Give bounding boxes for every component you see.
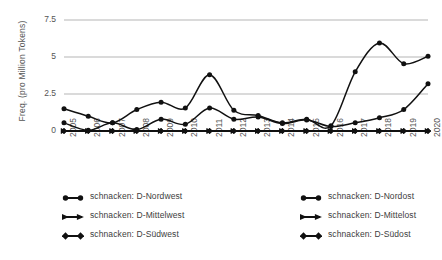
- legend-label: schnacken: D-Nordwest: [90, 191, 182, 201]
- data-point-circle-marker: [256, 114, 261, 119]
- legend-label: schnacken: D-Nordost: [328, 191, 414, 201]
- legend-item[interactable]: schnacken: D-Nordwest: [62, 186, 184, 205]
- data-point-circle-marker: [280, 121, 285, 126]
- series-2: [62, 81, 431, 133]
- legend-item[interactable]: schnacken: D-Südost: [300, 224, 416, 243]
- data-point-circle-marker: [63, 195, 68, 200]
- legend-swatch: [300, 209, 322, 221]
- legend-item[interactable]: schnacken: D-Südwest: [62, 224, 184, 243]
- data-point-circle-marker: [426, 54, 431, 59]
- series-1: [62, 40, 431, 128]
- data-point-triangle-marker: [77, 213, 84, 219]
- legend: schnacken: D-Nordwestschnacken: D-Mittel…: [0, 186, 438, 260]
- legend-label: schnacken: D-Mittelost: [328, 210, 416, 220]
- data-point-circle-marker: [207, 72, 212, 77]
- data-point-circle-marker: [62, 106, 67, 111]
- data-point-circle-marker: [304, 117, 309, 122]
- legend-swatch: [300, 190, 322, 202]
- data-point-circle-marker: [377, 115, 382, 120]
- circle-marker-icon: [300, 192, 322, 204]
- data-point-diamond-marker: [77, 232, 84, 239]
- triangle-marker-icon: [300, 211, 322, 223]
- series-6: [61, 128, 431, 134]
- data-point-circle-marker: [426, 81, 431, 86]
- data-point-circle-marker: [207, 106, 212, 111]
- legend-item[interactable]: schnacken: D-Mittelost: [300, 205, 416, 224]
- triangle-marker-icon: [62, 211, 84, 223]
- diamond-marker-icon: [62, 230, 84, 242]
- data-point-circle-marker: [231, 108, 236, 113]
- data-point-diamond-marker: [315, 232, 322, 239]
- legend-column-left: schnacken: D-Nordwestschnacken: D-Mittel…: [62, 186, 184, 243]
- legend-swatch: [62, 209, 84, 221]
- circle-marker-icon: [62, 192, 84, 204]
- data-point-circle-marker: [183, 106, 188, 111]
- series-line: [64, 84, 428, 131]
- data-point-circle-marker: [110, 120, 115, 125]
- data-point-circle-marker: [401, 107, 406, 112]
- data-point-circle-marker: [134, 107, 139, 112]
- legend-label: schnacken: D-Südwest: [90, 229, 179, 239]
- data-point-circle-marker: [159, 117, 164, 122]
- plot-area: [0, 0, 438, 186]
- data-point-circle-marker: [353, 69, 358, 74]
- data-point-circle-marker: [353, 120, 358, 125]
- data-point-diamond-marker: [300, 232, 307, 239]
- data-point-circle-marker: [62, 120, 67, 125]
- legend-label: schnacken: D-Südost: [328, 229, 411, 239]
- data-point-circle-marker: [159, 100, 164, 105]
- data-point-circle-marker: [316, 195, 321, 200]
- diamond-marker-icon: [300, 230, 322, 242]
- legend-item[interactable]: schnacken: D-Nordost: [300, 186, 416, 205]
- legend-column-right: schnacken: D-Nordostschnacken: D-Mittelo…: [300, 186, 416, 243]
- series-line: [64, 43, 428, 128]
- data-point-circle-marker: [401, 61, 406, 66]
- legend-swatch: [300, 228, 322, 240]
- data-point-circle-marker: [183, 122, 188, 127]
- data-point-circle-marker: [301, 195, 306, 200]
- legend-swatch: [62, 228, 84, 240]
- data-point-circle-marker: [86, 114, 91, 119]
- series-layer: [61, 40, 431, 134]
- legend-label: schnacken: D-Mittelwest: [90, 210, 184, 220]
- data-point-circle-marker: [78, 195, 83, 200]
- data-point-triangle-marker: [300, 213, 307, 219]
- data-point-triangle-marker: [315, 213, 322, 219]
- data-point-diamond-marker: [62, 232, 69, 239]
- legend-item[interactable]: schnacken: D-Mittelwest: [62, 205, 184, 224]
- data-point-circle-marker: [377, 40, 382, 45]
- data-point-circle-marker: [231, 117, 236, 122]
- legend-swatch: [62, 190, 84, 202]
- data-point-triangle-marker: [62, 213, 69, 219]
